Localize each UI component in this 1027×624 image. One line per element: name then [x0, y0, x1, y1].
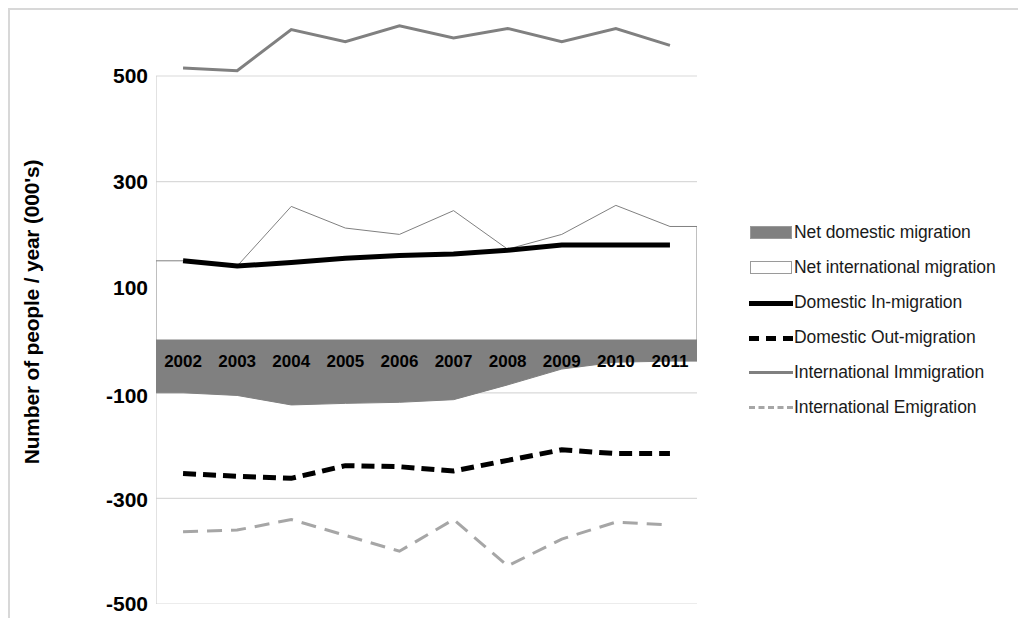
x-tick-2008: 2008: [489, 352, 527, 372]
x-tick-2003: 2003: [218, 352, 256, 372]
legend-item-net-domestic-migration[interactable]: Net domestic migration: [748, 215, 1018, 250]
legend-swatch-icon: [748, 215, 794, 250]
migration-chart: Number of people / year (000's) 500 300 …: [0, 0, 1027, 624]
legend-item-international-immigration[interactable]: International Immigration: [748, 355, 1018, 390]
legend-label: Net international migration: [794, 257, 996, 278]
legend-item-net-international-migration[interactable]: Net international migration: [748, 250, 1018, 285]
legend-item-domestic-in-migration[interactable]: Domestic In-migration: [748, 285, 1018, 320]
legend-swatch-icon: [748, 320, 794, 355]
legend-label: International Emigration: [794, 397, 976, 418]
line-domestic-out-migration: [183, 450, 670, 479]
area-net-international-migration: [156, 205, 697, 340]
legend-swatch-icon: [748, 250, 794, 285]
x-tick-2007: 2007: [435, 352, 473, 372]
legend-swatch-icon: [748, 355, 794, 390]
x-tick-2011: 2011: [651, 352, 688, 372]
y-axis-tick-labels: 500 300 100 -100 -300 -500: [38, 0, 148, 624]
legend-label: Domestic In-migration: [794, 292, 962, 313]
plot-svg: [156, 12, 697, 604]
legend-swatch-icon: [748, 390, 794, 425]
chart-legend: Net domestic migrationNet international …: [748, 215, 1018, 425]
x-tick-2006: 2006: [381, 352, 419, 372]
y-tick-n100: -100: [48, 384, 148, 408]
x-tick-2004: 2004: [272, 352, 310, 372]
line-international-immigration: [183, 26, 670, 71]
x-tick-2005: 2005: [326, 352, 364, 372]
y-tick-500: 500: [48, 64, 148, 88]
legend-item-international-emigration[interactable]: International Emigration: [748, 390, 1018, 425]
x-tick-2010: 2010: [597, 352, 635, 372]
area-series-group: [156, 205, 697, 405]
plot-area: [156, 12, 697, 604]
x-axis-tick-labels: 2002200320042005200620072008200920102011: [156, 352, 697, 374]
legend-label: International Immigration: [794, 362, 984, 383]
legend-item-domestic-out-migration[interactable]: Domestic Out-migration: [748, 320, 1018, 355]
legend-label: Net domestic migration: [794, 222, 971, 243]
legend-label: Domestic Out-migration: [794, 327, 976, 348]
y-tick-n500: -500: [48, 592, 148, 616]
x-tick-2009: 2009: [543, 352, 581, 372]
y-tick-n300: -300: [48, 488, 148, 512]
x-tick-2002: 2002: [164, 352, 202, 372]
y-tick-300: 300: [48, 170, 148, 194]
y-tick-100: 100: [48, 276, 148, 300]
legend-swatch-icon: [748, 285, 794, 320]
line-international-emigration: [183, 520, 670, 566]
